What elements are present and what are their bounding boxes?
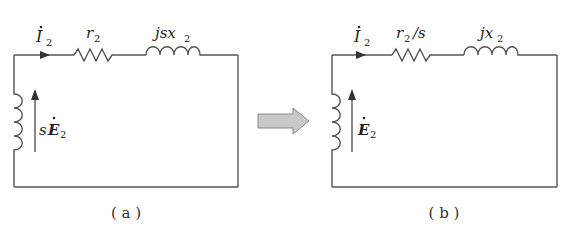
series-inductor-icon-b [464,47,557,55]
svg-text:r: r [86,24,94,42]
source-inductor-icon-a [14,55,22,187]
transform-arrow-icon [258,108,309,134]
resistor-label-a: r 2 [86,24,100,44]
current-label-b: I 2 [353,26,370,48]
inductor-label-a: jsx 2 [152,24,190,44]
svg-text:2: 2 [404,33,410,44]
svg-text:E: E [357,121,370,139]
emf-arrow-icon-b [348,89,356,100]
panel-b-circuit: I 2 r 2 /s jx 2 E 2 ( b ) [332,24,557,222]
svg-text:E: E [47,121,60,139]
svg-text:2: 2 [94,33,100,44]
svg-text:2: 2 [364,37,370,48]
svg-text:I: I [35,27,43,46]
circuit-diagram-figure: I 2 r 2 jsx 2 s E 2 ( a ) [0,0,571,231]
caption-a: ( a ) [111,204,141,222]
phasor-dot-icon [363,117,366,120]
svg-text:s: s [39,121,47,139]
emf-label-b: E 2 [357,117,376,140]
svg-text:r: r [396,24,404,42]
phasor-dot-icon [53,117,56,120]
series-inductor-icon-a [146,47,238,55]
resistor-label-b: r 2 /s [396,24,426,44]
current-arrow-icon-a [40,51,50,59]
svg-text:2: 2 [184,33,190,44]
svg-text:2: 2 [46,37,52,48]
resistor-icon-a [74,49,146,61]
panel-a-circuit: I 2 r 2 jsx 2 s E 2 ( a ) [14,24,238,222]
svg-text:2: 2 [497,33,503,44]
caption-b: ( b ) [429,204,460,222]
phasor-dot-icon [358,26,361,29]
svg-text:jsx: jsx [152,24,176,42]
current-label-a: I 2 [35,26,52,48]
svg-text:2: 2 [370,129,376,140]
svg-text:2: 2 [60,129,66,140]
svg-text:I: I [353,27,361,46]
emf-label-a: s E 2 [39,117,66,140]
svg-text:/s: /s [411,24,426,42]
resistor-icon-b [392,49,464,61]
emf-arrow-icon-a [31,89,39,100]
svg-text:jx: jx [477,24,494,42]
current-arrow-icon-b [356,51,366,59]
inductor-label-b: jx 2 [477,24,503,44]
source-inductor-icon-b [332,55,340,187]
phasor-dot-icon [40,26,43,29]
